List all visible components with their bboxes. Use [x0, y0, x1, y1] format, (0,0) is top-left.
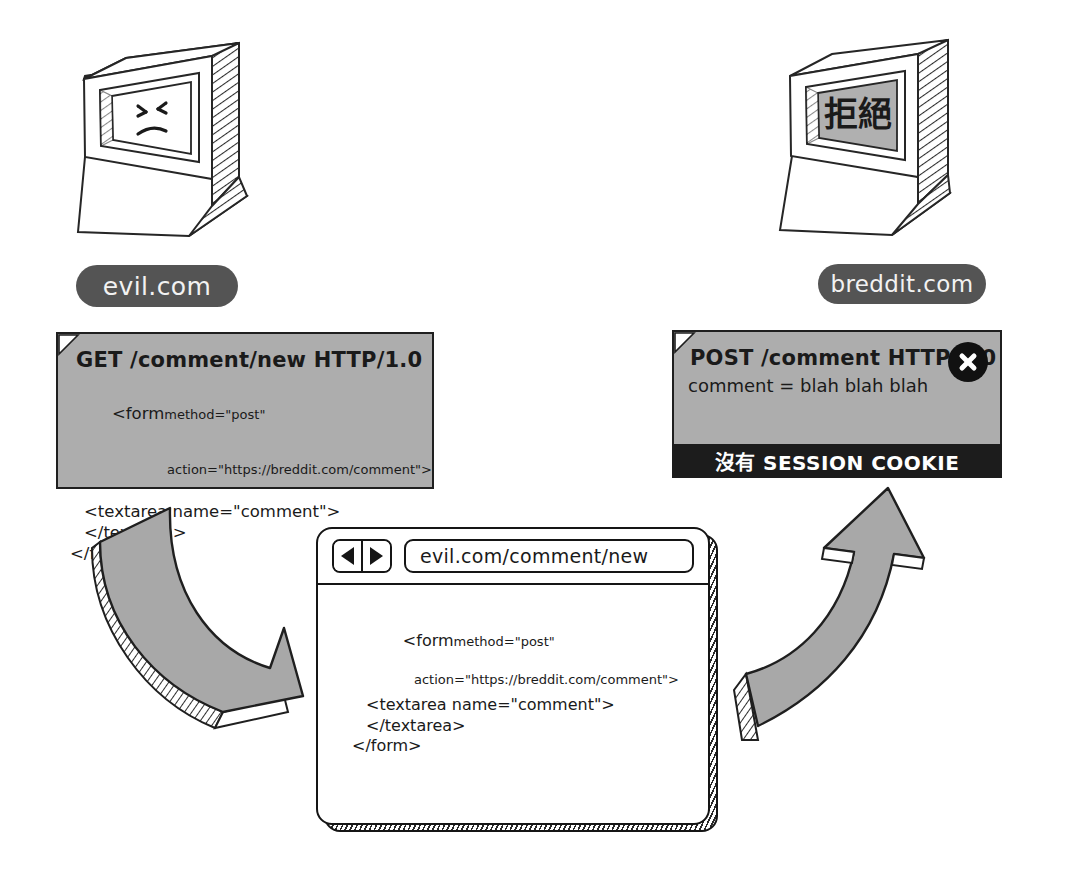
nav-buttons[interactable]	[332, 539, 392, 573]
evil-monitor	[72, 36, 302, 251]
form-open-tag: <form	[112, 404, 164, 423]
post-body-line: comment = blah blah blah	[688, 374, 928, 397]
crt-monitor-icon: 拒絕	[772, 30, 1010, 252]
page-form-method-attr: method="post"	[454, 634, 555, 649]
get-request-line: GET /comment/new HTTP/1.0	[76, 348, 422, 372]
response-flow-arrow-right	[728, 478, 953, 736]
browser-page-content: <formmethod="post" action="https://bredd…	[318, 585, 708, 782]
form-action-attr: action="https://breddit.com/comment">	[167, 462, 432, 477]
crt-monitor-icon	[72, 36, 302, 251]
browser-toolbar: evil.com/comment/new	[318, 529, 708, 585]
rendered-form-code: <formmethod="post" action="https://bredd…	[352, 611, 674, 756]
get-request-card: GET /comment/new HTTP/1.0 <formmethod="p…	[56, 332, 434, 489]
page-form-open-line: <formmethod="post"	[352, 611, 674, 672]
page-form-close-line: </form>	[352, 736, 674, 756]
evil-domain-label: evil.com	[76, 265, 238, 307]
page-form-action-line: action="https://breddit.com/comment">	[352, 672, 674, 689]
circle-x-icon	[956, 350, 980, 374]
evil-domain-text: evil.com	[103, 272, 212, 301]
curved-arrow-down-right-icon	[98, 500, 308, 735]
back-button[interactable]	[334, 541, 361, 571]
get-request-line-text: GET /comment/new HTTP/1.0	[76, 348, 422, 372]
forward-arrow-icon	[370, 547, 383, 565]
page-textarea-close-line: </textarea>	[352, 716, 674, 736]
breddit-domain-text: breddit.com	[830, 271, 973, 297]
back-arrow-icon	[341, 547, 354, 565]
request-flow-arrow-left	[98, 500, 308, 735]
browser-window: evil.com/comment/new <formmethod="post" …	[316, 527, 710, 825]
form-open-line: <formmethod="post"	[70, 382, 430, 445]
form-method-attr: method="post"	[164, 407, 265, 422]
page-textarea-open-line: <textarea name="comment">	[352, 695, 674, 715]
diagram-canvas: evil.com GET /comment/new HTTP/1.0 <form…	[0, 0, 1075, 886]
no-session-cookie-text: 沒有 SESSION COOKIE	[715, 447, 960, 476]
breddit-screen-text: 拒絕	[824, 94, 892, 134]
post-body-text: comment = blah blah blah	[688, 375, 928, 396]
post-response-card: POST /comment HTTP/1.0 comment = blah bl…	[672, 330, 1002, 478]
breddit-domain-label: breddit.com	[818, 264, 986, 304]
address-bar-text: evil.com/comment/new	[420, 545, 648, 567]
no-session-cookie-banner: 沒有 SESSION COOKIE	[672, 444, 1002, 478]
reject-badge	[948, 342, 988, 382]
forward-button[interactable]	[361, 541, 390, 571]
breddit-monitor: 拒絕	[772, 30, 1010, 252]
curved-arrow-up-right-icon	[728, 478, 953, 736]
page-form-open-tag: <form	[403, 631, 454, 650]
form-action-line: action="https://breddit.com/comment">	[70, 445, 430, 495]
address-bar[interactable]: evil.com/comment/new	[404, 539, 694, 573]
